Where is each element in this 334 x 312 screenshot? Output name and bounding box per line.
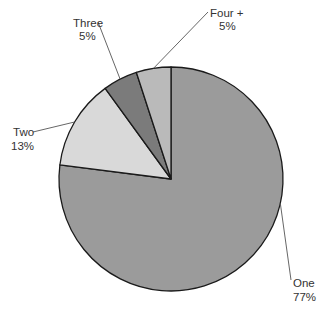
label-three-name: Three — [73, 17, 103, 29]
label-four-name: Four + — [210, 7, 244, 19]
leader-line-three — [98, 22, 120, 79]
leader-line-one — [280, 203, 291, 280]
label-two-name: Two — [13, 126, 34, 138]
label-one-name: One — [293, 277, 315, 289]
leader-line-four — [153, 12, 208, 68]
label-one-pct: 77% — [293, 291, 316, 303]
pie-chart: One 77% Two 13% Three 5% Four + 5% — [0, 0, 334, 312]
leader-line-two — [33, 122, 75, 132]
label-four-pct: 5% — [219, 20, 236, 32]
label-two-pct: 13% — [11, 140, 34, 152]
label-three-pct: 5% — [79, 30, 96, 42]
pie-slices — [59, 67, 283, 291]
